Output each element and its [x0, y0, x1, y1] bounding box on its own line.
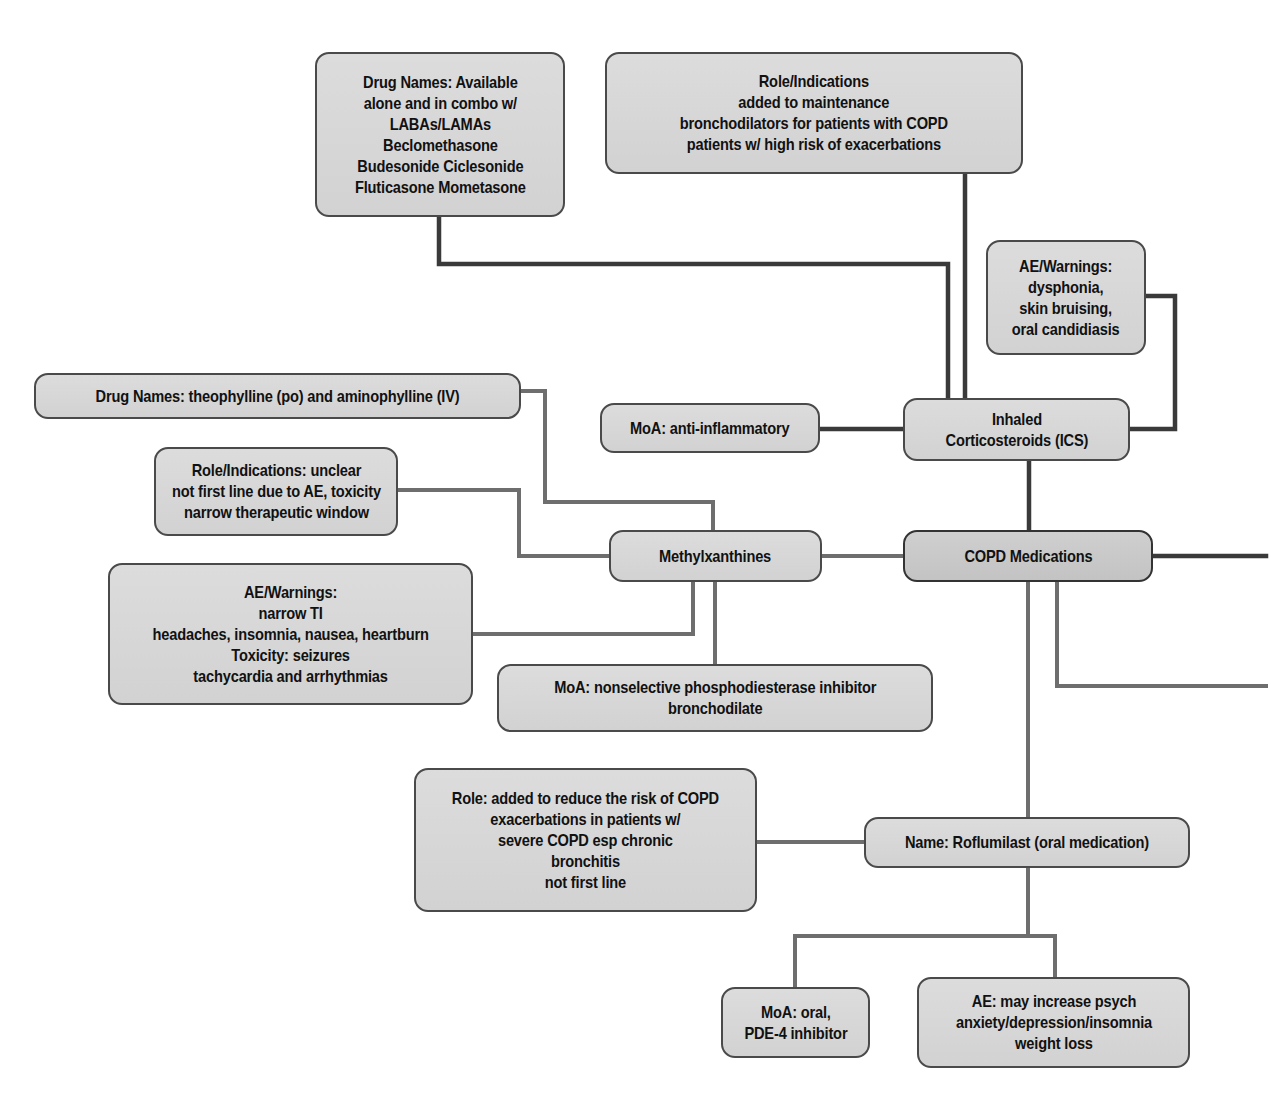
ics-ae-node: AE/Warnings: dysphonia, skin bruising, o…: [986, 240, 1146, 355]
node-text-line: Corticosteroids (ICS): [945, 430, 1088, 451]
ics-node[interactable]: Inhaled Corticosteroids (ICS): [903, 398, 1130, 461]
ics-role-node: Role/Indications added to maintenance br…: [605, 52, 1023, 174]
node-text-line: bronchodilators for patients with COPD: [680, 113, 948, 134]
rf-moa-text: MoA: oral, PDE-4 inhibitor: [744, 1002, 847, 1044]
node-text-line: Fluticasone Mometasone: [355, 177, 526, 198]
node-text-line: MoA: anti-inflammatory: [630, 418, 789, 439]
node-text-line: Role: added to reduce the risk of COPD: [452, 788, 719, 809]
copd-medications-text: COPD Medications: [964, 546, 1092, 567]
node-text-line: alone and in combo w/: [363, 93, 516, 114]
roflumilast-text: Name: Roflumilast (oral medication): [905, 832, 1149, 853]
node-text-line: weight loss: [1015, 1033, 1093, 1054]
ics-moa-text: MoA: anti-inflammatory: [630, 418, 789, 439]
node-text-line: Role/Indications: unclear: [191, 460, 361, 481]
ics-drug-names-text: Drug Names: Available alone and in combo…: [355, 72, 526, 198]
mx-drug-names-text: Drug Names: theophylline (po) and aminop…: [96, 386, 460, 407]
node-text-line: Name: Roflumilast (oral medication): [905, 832, 1149, 853]
connector-copd-right-lower: [1057, 582, 1266, 686]
node-text-line: severe COPD esp chronic: [498, 830, 673, 851]
node-text-line: narrow TI: [258, 603, 322, 624]
mx-ae-node: AE/Warnings: narrow TI headaches, insomn…: [108, 563, 473, 705]
ics-ae-text: AE/Warnings: dysphonia, skin bruising, o…: [1012, 256, 1120, 340]
roflumilast-node[interactable]: Name: Roflumilast (oral medication): [864, 817, 1190, 868]
node-text-line: MoA: oral,: [761, 1002, 831, 1023]
node-text-line: AE/Warnings:: [244, 582, 337, 603]
connector-rf-children: [795, 868, 1055, 987]
mx-role-node: Role/Indications: unclear not first line…: [154, 447, 398, 536]
node-text-line: anxiety/depression/insomnia: [955, 1012, 1151, 1033]
node-text-line: AE: may increase psych: [971, 991, 1135, 1012]
node-text-line: Drug Names: Available: [363, 72, 518, 93]
node-text-line: headaches, insomnia, nausea, heartburn: [152, 624, 428, 645]
rf-ae-node: AE: may increase psych anxiety/depressio…: [917, 977, 1190, 1068]
methylxanthines-text: Methylxanthines: [660, 546, 772, 567]
connector-mx-role: [398, 490, 609, 556]
node-text-line: skin bruising,: [1020, 298, 1113, 319]
ics-moa-node: MoA: anti-inflammatory: [600, 403, 820, 453]
connector-mx-ae: [473, 582, 693, 634]
mx-moa-node: MoA: nonselective phosphodiesterase inhi…: [497, 664, 933, 732]
mx-role-text: Role/Indications: unclear not first line…: [172, 460, 381, 523]
node-text-line: bronchitis: [551, 851, 620, 872]
rf-moa-node: MoA: oral, PDE-4 inhibitor: [721, 987, 870, 1058]
ics-text: Inhaled Corticosteroids (ICS): [945, 409, 1088, 451]
copd-medications-node[interactable]: COPD Medications: [903, 530, 1153, 582]
node-text-line: AE/Warnings:: [1019, 256, 1112, 277]
connector-ics-drug-names: [439, 217, 948, 400]
node-text-line: added to maintenance: [739, 92, 890, 113]
node-text-line: patients w/ high risk of exacerbations: [687, 134, 941, 155]
node-text-line: PDE-4 inhibitor: [744, 1023, 847, 1044]
rf-role-node: Role: added to reduce the risk of COPD e…: [414, 768, 757, 912]
mx-ae-text: AE/Warnings: narrow TI headaches, insomn…: [152, 582, 428, 687]
rf-ae-text: AE: may increase psych anxiety/depressio…: [955, 991, 1151, 1054]
node-text-line: narrow therapeutic window: [184, 502, 369, 523]
node-text-line: not first line: [545, 872, 626, 893]
node-text-line: Toxicity: seizures: [231, 645, 350, 666]
node-text-line: Inhaled: [992, 409, 1042, 430]
node-text-line: not first line due to AE, toxicity: [172, 481, 381, 502]
node-text-line: dysphonia,: [1028, 277, 1103, 298]
node-text-line: oral candidiasis: [1012, 319, 1120, 340]
methylxanthines-node[interactable]: Methylxanthines: [609, 530, 822, 582]
node-text-line: Budesonide Ciclesonide: [357, 156, 523, 177]
node-text-line: tachycardia and arrhythmias: [193, 666, 387, 687]
ics-drug-names-node: Drug Names: Available alone and in combo…: [315, 52, 565, 217]
ics-role-text: Role/Indications added to maintenance br…: [680, 71, 948, 155]
node-text-line: exacerbations in patients w/: [490, 809, 680, 830]
mx-drug-names-node: Drug Names: theophylline (po) and aminop…: [34, 373, 521, 419]
node-text-line: COPD Medications: [964, 546, 1092, 567]
node-text-line: MoA: nonselective phosphodiesterase inhi…: [554, 677, 876, 698]
node-text-line: Drug Names: theophylline (po) and aminop…: [96, 386, 460, 407]
rf-role-text: Role: added to reduce the risk of COPD e…: [452, 788, 719, 893]
node-text-line: bronchodilate: [668, 698, 762, 719]
node-text-line: Methylxanthines: [660, 546, 772, 567]
node-text-line: Beclomethasone: [383, 135, 498, 156]
node-text-line: Role/Indications: [759, 71, 869, 92]
mx-moa-text: MoA: nonselective phosphodiesterase inhi…: [554, 677, 876, 719]
node-text-line: LABAs/LAMAs: [389, 114, 490, 135]
